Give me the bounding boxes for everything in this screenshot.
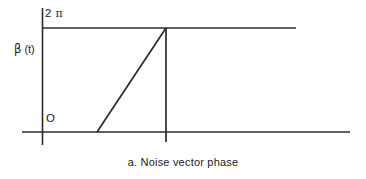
phase-ramp-line bbox=[97, 28, 166, 132]
noise-vector-phase-plot bbox=[0, 0, 366, 179]
figure-container: 2 π β (t) O a. Noise vector phase bbox=[0, 0, 366, 179]
origin-label: O bbox=[46, 113, 55, 125]
figure-caption: a. Noise vector phase bbox=[0, 156, 366, 168]
pi-symbol: π bbox=[56, 7, 64, 20]
plot-lines bbox=[22, 8, 350, 145]
y-axis-argument: (t) bbox=[21, 43, 34, 55]
y-axis-title: β (t) bbox=[14, 44, 35, 56]
y-axis-max-label: 2 π bbox=[45, 8, 63, 20]
y-max-number: 2 bbox=[45, 7, 52, 19]
